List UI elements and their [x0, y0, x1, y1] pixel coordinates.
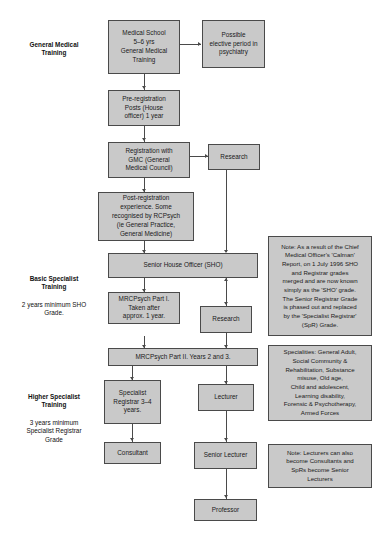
node-elective-period[interactable]: Possible elective period in psychiatry — [202, 20, 265, 68]
arrowhead-down — [142, 86, 146, 89]
arrowhead-down — [224, 302, 228, 305]
node-specialist-registrar[interactable]: Specialist Registrar 3–4 years. — [104, 380, 161, 424]
stage-title: Basic Specialist Training — [6, 275, 102, 292]
node-gmc-registration[interactable]: Registration with GMC (General Medical C… — [108, 142, 190, 178]
node-lecturer[interactable]: Lecturer — [198, 384, 254, 411]
note-specialities: Specialities: General Adult, Social Comm… — [268, 345, 372, 421]
flowchart-canvas: General Medical Training Basic Specialis… — [0, 0, 376, 541]
arrowhead-down — [224, 438, 228, 441]
node-post-registration-experience[interactable]: Post-registration experience. Some recog… — [98, 192, 194, 241]
node-research-upper[interactable]: Research — [208, 144, 260, 170]
node-medical-school[interactable]: Medical School 5–6 yrs General Medical T… — [108, 20, 180, 74]
arrowhead-down — [130, 438, 134, 441]
node-pre-registration-posts[interactable]: Pre-registration Posts (House officer) 1… — [108, 90, 180, 126]
arrowhead-right — [198, 42, 201, 46]
node-mrcpsych-part-2[interactable]: MRCPsych Part II. Years 2 and 3. — [108, 348, 258, 366]
stage-label-general-medical-training: General Medical Training — [6, 32, 102, 75]
arrowhead-up — [224, 278, 228, 281]
node-professor[interactable]: Professor — [194, 499, 257, 521]
note-lecturers: Note: Lecturers can also become Consulta… — [268, 444, 372, 488]
stage-label-higher-specialist-training: Higher Specialist Training 3 years minim… — [6, 384, 102, 453]
stage-subtitle: 2 years minimum SHO Grade. — [6, 301, 102, 318]
stage-title: General Medical Training — [6, 41, 102, 58]
stage-subtitle: 3 years minimum Specialist Registrar Gra… — [6, 419, 102, 445]
node-senior-lecturer[interactable]: Senior Lecturer — [194, 442, 257, 469]
node-mrcpsych-part-1[interactable]: MRCPsych Part I. Taken after approx. 1 y… — [108, 292, 180, 324]
connector-research-upper-sho — [226, 170, 227, 252]
stage-title: Higher Specialist Training — [6, 393, 102, 410]
node-senior-house-officer[interactable]: Senior House Officer (SHO) — [108, 253, 258, 278]
arrowhead-down — [142, 138, 146, 141]
arrowhead-down — [224, 495, 228, 498]
node-consultant[interactable]: Consultant — [104, 442, 161, 464]
node-research-lower[interactable]: Research — [200, 306, 252, 333]
stage-label-basic-specialist-training: Basic Specialist Training 2 years minimu… — [6, 266, 102, 326]
note-calman-report: Note: As a result of the Chief Medical O… — [268, 236, 372, 336]
